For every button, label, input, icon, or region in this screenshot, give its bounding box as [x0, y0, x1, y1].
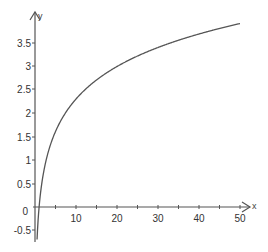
chart: 10 20 30 40 50 -0.5 0 0.5 1 1.5 2 2.5 3 … — [0, 0, 268, 252]
y-tick-label: -0.5 — [14, 225, 32, 236]
x-axis-label: x — [252, 201, 257, 211]
x-tick-label: 50 — [234, 213, 246, 224]
x-tick-label: 30 — [152, 213, 164, 224]
x-tick-label: 40 — [193, 213, 205, 224]
x-tick-label: 20 — [111, 213, 123, 224]
y-tick-label: 0.5 — [17, 179, 31, 190]
y-axis-label: y — [38, 11, 43, 21]
y-tick-label: 1.5 — [17, 132, 31, 143]
y-tick-label: 3 — [25, 61, 31, 72]
origin-label: 0 — [22, 206, 28, 217]
y-tick-label: 3.5 — [17, 38, 31, 49]
y-tick-label: 2.5 — [17, 84, 31, 95]
x-tick-label: 10 — [70, 213, 82, 224]
y-tick-label: 1 — [25, 155, 31, 166]
y-tick-label: 2 — [25, 108, 31, 119]
